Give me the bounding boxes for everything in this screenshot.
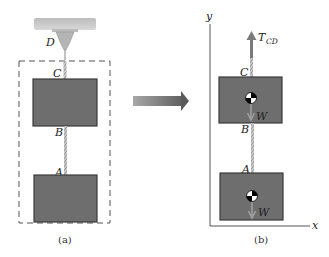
y-axis-label: y bbox=[205, 10, 213, 23]
center-of-mass-icon bbox=[246, 93, 257, 104]
ceiling-beam bbox=[34, 18, 96, 30]
caption-b: (b) bbox=[254, 234, 268, 245]
upper-block bbox=[33, 79, 97, 126]
panel-a: D C B A (a) bbox=[19, 18, 110, 245]
tension-subscript: CD bbox=[266, 37, 278, 46]
weight-label-lower: W bbox=[258, 206, 271, 219]
x-axis-label: x bbox=[312, 219, 319, 232]
center-of-mass-icon bbox=[247, 191, 258, 202]
lower-block bbox=[34, 175, 97, 222]
panel-b: y x T CD C W B A bbox=[205, 10, 319, 245]
tension-arrow-icon bbox=[247, 31, 257, 60]
hanger-bracket bbox=[56, 32, 74, 50]
label-b: B bbox=[54, 126, 63, 139]
label-c: C bbox=[53, 67, 62, 80]
label-b-b: B bbox=[240, 123, 249, 136]
caption-a: (a) bbox=[58, 234, 72, 245]
free-body-diagram: D C B A (a) y x T CD C bbox=[0, 0, 329, 257]
weight-label-upper: W bbox=[256, 110, 269, 123]
label-d: D bbox=[45, 36, 55, 49]
transition-arrow-icon bbox=[133, 91, 189, 111]
